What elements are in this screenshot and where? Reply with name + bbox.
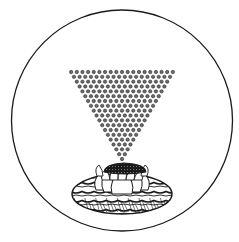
triangle-dot: [137, 80, 140, 83]
triangle-dot: [157, 75, 160, 78]
triangle-dot: [120, 119, 123, 122]
triangle-dot: [98, 90, 101, 93]
water-hatch-line: [168, 204, 172, 212]
triangle-dot: [117, 94, 120, 97]
triangle-dot: [168, 75, 171, 78]
triangle-dot: [126, 99, 129, 102]
triangle-dot: [86, 99, 89, 102]
triangle-dot: [115, 90, 118, 93]
triangle-dot: [117, 85, 120, 88]
triangle-dot: [120, 128, 123, 131]
triangle-dot: [160, 90, 163, 93]
triangle-dot: [149, 99, 152, 102]
triangle-dot: [129, 85, 132, 88]
triangle-dot: [132, 128, 135, 131]
triangle-dot: [106, 114, 109, 117]
triangle-dot: [132, 138, 135, 141]
triangle-dot: [132, 70, 135, 73]
triangle-dot: [120, 99, 123, 102]
water-hatch-line: [171, 198, 175, 212]
triangle-dot: [129, 123, 132, 126]
triangle-dot: [140, 104, 143, 107]
triangle-dot: [115, 70, 118, 73]
triangle-dot: [115, 109, 118, 112]
triangle-dot: [112, 94, 115, 97]
triangle-dot: [140, 85, 143, 88]
triangle-dot: [109, 80, 112, 83]
triangle-dot: [126, 138, 129, 141]
triangle-dot: [132, 90, 135, 93]
triangle-dot: [132, 109, 135, 112]
triangle-dot: [69, 70, 72, 73]
triangle-dot: [120, 90, 123, 93]
triangle-dot: [126, 109, 129, 112]
triangle-dot: [84, 85, 87, 88]
triangle-dot: [112, 114, 115, 117]
triangle-dot: [134, 104, 137, 107]
triangle-dot: [109, 138, 112, 141]
triangle-dot: [166, 80, 169, 83]
triangle-dot: [92, 70, 95, 73]
triangle-dot: [129, 94, 132, 97]
triangle-dot: [132, 80, 135, 83]
triangle-dot: [160, 70, 163, 73]
triangle-dot: [120, 157, 123, 160]
triangle-dot: [95, 85, 98, 88]
triangle-dot: [109, 90, 112, 93]
triangle-dot: [109, 128, 112, 131]
triangle-dot: [154, 90, 157, 93]
triangle-dot: [126, 128, 129, 131]
triangle-dot: [120, 80, 123, 83]
triangle-dot: [137, 90, 140, 93]
triangle-dot: [109, 70, 112, 73]
triangle-dot: [112, 123, 115, 126]
triangle-dot: [117, 133, 120, 136]
triangle-dot: [123, 152, 126, 155]
triangle-dot: [103, 128, 106, 131]
triangle-dot: [126, 148, 129, 151]
triangle-dot: [123, 133, 126, 136]
triangle-dot: [123, 123, 126, 126]
triangle-dot: [157, 94, 160, 97]
triangle-dot: [106, 85, 109, 88]
triangle-dot: [75, 80, 78, 83]
triangle-dot: [106, 75, 109, 78]
triangle-dot: [115, 148, 118, 151]
triangle-dot: [120, 109, 123, 112]
triangle-dot: [123, 75, 126, 78]
triangle-dot: [154, 99, 157, 102]
triangle-dot: [81, 90, 84, 93]
triangle-dot: [163, 75, 166, 78]
triangle-dot: [92, 90, 95, 93]
triangle-dot: [123, 104, 126, 107]
triangle-dot: [75, 70, 78, 73]
triangle-dot: [132, 119, 135, 122]
triangle-dot: [143, 90, 146, 93]
triangle-dot: [112, 143, 115, 146]
triangle-dot: [117, 143, 120, 146]
triangle-dot: [106, 133, 109, 136]
triangle-dot: [112, 133, 115, 136]
triangle-dot: [137, 109, 140, 112]
triangle-dot: [126, 80, 129, 83]
triangle-dot: [98, 70, 101, 73]
triangle-dot: [101, 94, 104, 97]
triangle-dot: [120, 70, 123, 73]
mandala-illustration: [0, 0, 239, 242]
triangle-dot: [86, 80, 89, 83]
triangle-dot: [78, 85, 81, 88]
triangle-dot: [140, 94, 143, 97]
triangle-dot: [101, 123, 104, 126]
triangle-dot: [143, 80, 146, 83]
triangle-dot: [137, 70, 140, 73]
triangle-dot: [95, 75, 98, 78]
triangle-dot: [109, 109, 112, 112]
triangle-dot: [146, 75, 149, 78]
triangle-dot: [129, 114, 132, 117]
triangle-dot: [160, 80, 163, 83]
triangle-dot: [115, 138, 118, 141]
triangle-dot: [151, 104, 154, 107]
triangle-dot: [112, 104, 115, 107]
triangle-dot: [143, 70, 146, 73]
triangle-dot: [98, 119, 101, 122]
